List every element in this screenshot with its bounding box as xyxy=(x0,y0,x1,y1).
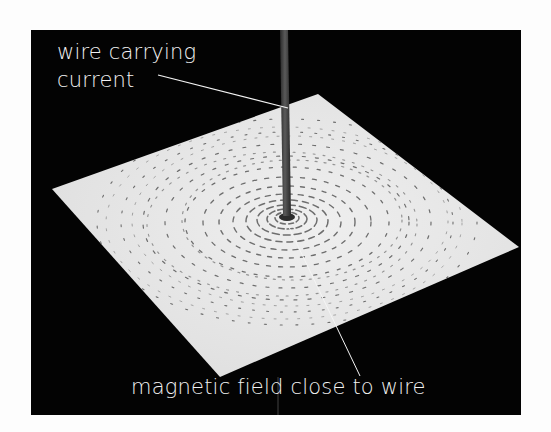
wire-label-line1: wire carrying xyxy=(57,38,196,66)
field-label: magnetic field close to wire xyxy=(131,373,426,401)
wire-label: wire carrying current xyxy=(57,38,196,94)
wire-label-line2: current xyxy=(57,66,196,94)
